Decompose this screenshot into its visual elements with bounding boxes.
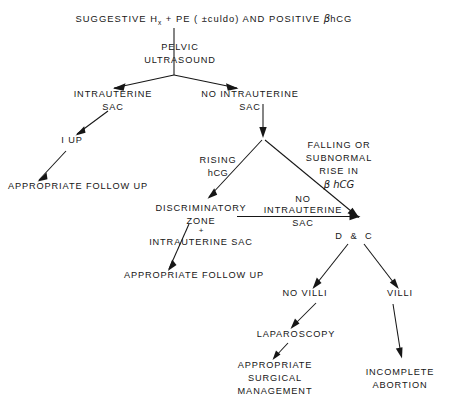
root-seg-3: + PE ( ±culdo) AND POSITIVE bbox=[162, 13, 324, 24]
intrauterine-sac-node-line-1: INTRAUTERINE bbox=[74, 89, 153, 99]
no-villi-node: NO VILLI bbox=[283, 288, 328, 298]
root-seg-1: SUGGESTIVE H bbox=[76, 13, 158, 24]
rising-hcg-label-line-1: RISING bbox=[199, 155, 236, 165]
laparoscopy-node: LAPAROSCOPY bbox=[257, 329, 336, 339]
suggestive-history-node: SUGGESTIVE Hx + PE ( ±culdo) AND POSITIV… bbox=[76, 13, 353, 26]
pelvic-ultrasound-node-line-2: ULTRASOUND bbox=[144, 55, 216, 65]
villi-node: VILLI bbox=[387, 288, 413, 298]
dilation-and-curettage-node: D & C bbox=[335, 231, 375, 241]
no-intrauterine-sac-node-line-2: SAC bbox=[239, 102, 261, 112]
edge-dc-to-villi bbox=[364, 244, 397, 287]
appropriate-follow-up-node-1: APPROPRIATE FOLLOW UP bbox=[8, 181, 148, 191]
flowchart-canvas: SUGGESTIVE Hx + PE ( ±culdo) AND POSITIV… bbox=[0, 0, 471, 406]
falling-or-subnormal-rise-label-line-1: FALLING OR bbox=[307, 140, 370, 150]
no-intrauterine-sac-label-2-line-2: INTRAUTERINE bbox=[264, 205, 343, 215]
edges-layer bbox=[38, 28, 403, 360]
root-seg-5: hCG bbox=[330, 13, 352, 24]
edge-villi-to-incomplete-abortion bbox=[393, 304, 401, 355]
falling-or-subnormal-rise-label-line-2: SUBNORMAL bbox=[306, 153, 372, 163]
intrauterine-sac-node-line-2: SAC bbox=[102, 102, 124, 112]
edge-no-iu-sac-down-arrowhead bbox=[259, 127, 266, 138]
falling-or-subnormal-rise-label-line-4: β hCG bbox=[323, 179, 355, 190]
iup-node: I UP bbox=[61, 135, 82, 145]
no-intrauterine-sac-label-2-line-1: NO bbox=[295, 194, 311, 204]
discriminatory-zone-node-plus: + bbox=[199, 226, 204, 235]
pelvic-ultrasound-node-line-1: PELVIC bbox=[161, 42, 198, 52]
rising-hcg-label-line-2: hCG bbox=[208, 168, 228, 178]
appropriate-surgical-management-node-line-2: SURGICAL bbox=[248, 373, 302, 383]
discriminatory-zone-node-line-2: ZONE bbox=[186, 216, 215, 226]
no-intrauterine-sac-label-2-line-3: SAC bbox=[292, 218, 314, 228]
labels-layer: SUGGESTIVE Hx + PE ( ±culdo) AND POSITIV… bbox=[8, 13, 434, 396]
edge-no-villi-to-laparoscopy-arrowhead bbox=[291, 319, 300, 330]
falling-or-subnormal-rise-label-line-3: RISE IN bbox=[319, 166, 358, 176]
edge-villi-to-incomplete-abortion-arrowhead bbox=[396, 347, 403, 358]
appropriate-follow-up-node-2: APPROPRIATE FOLLOW UP bbox=[124, 270, 264, 280]
flowchart-page: SUGGESTIVE Hx + PE ( ±culdo) AND POSITIV… bbox=[0, 0, 471, 406]
discriminatory-zone-node-line-1: DISCRIMINATORY bbox=[155, 203, 246, 213]
edge-iup-to-followup-1 bbox=[39, 151, 66, 180]
no-intrauterine-sac-node-line-1: NO INTRAUTERINE bbox=[201, 89, 299, 99]
incomplete-abortion-node-line-1: INCOMPLETE bbox=[366, 367, 435, 377]
appropriate-surgical-management-node-line-1: APPROPRIATE bbox=[238, 360, 313, 370]
discriminatory-zone-node-line-4: INTRAUTERINE SAC bbox=[149, 237, 253, 247]
appropriate-surgical-management-node-line-3: MANAGEMENT bbox=[238, 386, 313, 396]
incomplete-abortion-node-line-2: ABORTION bbox=[372, 380, 427, 390]
